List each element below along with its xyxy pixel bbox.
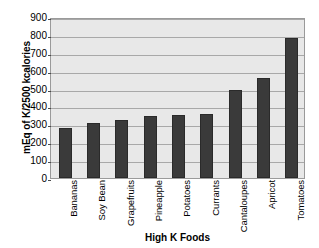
- bars: [51, 19, 304, 178]
- x-axis-tick-label-slot: Soy Bean: [78, 180, 106, 232]
- x-axis-tick-label-slot: Currants: [192, 180, 220, 232]
- y-axis-tick-label: 700: [16, 49, 47, 59]
- plot-area: [50, 18, 305, 179]
- bar-chart: mEq of K/2500 kcalories 9008007006005004…: [0, 0, 319, 248]
- bar: [285, 38, 298, 178]
- y-axis-tick-label: 800: [16, 31, 47, 41]
- y-axis-tick-label: 500: [16, 85, 47, 95]
- y-axis-tick-label: 600: [16, 67, 47, 77]
- y-axis-tick-label: 100: [16, 156, 47, 166]
- bar: [87, 123, 100, 178]
- bar: [200, 114, 213, 178]
- bar: [144, 116, 157, 178]
- bar: [115, 120, 128, 178]
- x-axis-tick-labels: BananasSoy BeanGrapefruitsPineapplePotat…: [50, 180, 305, 232]
- bar: [59, 128, 72, 178]
- x-axis-tick-label-slot: Pineapple: [135, 180, 163, 232]
- bar: [172, 115, 185, 178]
- y-axis-tick-label: 900: [16, 13, 47, 23]
- bar: [229, 90, 242, 178]
- y-axis-tick-label: 0: [16, 174, 47, 184]
- x-axis-title: High K Foods: [50, 232, 305, 243]
- bar: [257, 78, 270, 178]
- x-axis-tick-label-slot: Cantaloupes: [220, 180, 248, 232]
- x-axis-tick-label-slot: Tomatoes: [277, 180, 305, 232]
- y-axis-tick-label: 200: [16, 138, 47, 148]
- x-axis-tick-label-slot: Grapefruits: [107, 180, 135, 232]
- x-axis-tick-label-slot: Bananas: [50, 180, 78, 232]
- x-axis-tick-label: Tomatoes: [295, 180, 306, 220]
- x-axis-tick-label-slot: Apricot: [248, 180, 276, 232]
- x-axis-tick-label-slot: Potatoes: [163, 180, 191, 232]
- y-axis-tick-label: 300: [16, 120, 47, 130]
- y-axis-tick-label: 400: [16, 102, 47, 112]
- y-axis-tick-labels: 9008007006005004003002001000: [16, 18, 47, 179]
